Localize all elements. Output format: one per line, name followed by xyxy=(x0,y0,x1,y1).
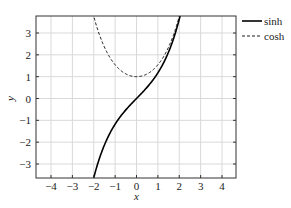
legend-sinh-label: sinh xyxy=(264,15,283,27)
y-axis-label: y xyxy=(4,96,16,102)
y-tick-label: −1 xyxy=(19,114,31,126)
y-tick-label: 1 xyxy=(26,71,32,83)
x-tick-label: 2 xyxy=(177,180,183,192)
x-axis-label: x xyxy=(133,190,139,202)
y-tick-label: −3 xyxy=(19,158,31,170)
x-tick-label: 3 xyxy=(198,180,204,192)
x-tick-label: −1 xyxy=(109,180,121,192)
x-tick-label: −2 xyxy=(88,180,100,192)
y-tick-label: 3 xyxy=(26,27,32,39)
y-tick-label: 0 xyxy=(26,93,32,105)
x-tick-label: −4 xyxy=(45,180,57,192)
y-tick-label: 2 xyxy=(26,49,32,61)
legend-cosh-label: cosh xyxy=(264,30,285,42)
x-tick-label: 4 xyxy=(219,180,225,192)
grid-lines xyxy=(36,16,236,178)
x-tick-label: −3 xyxy=(67,180,79,192)
chart: −4−3−2−101234−3−2−10123 x y sinh cosh xyxy=(0,0,291,208)
axis-ticks: −4−3−2−101234−3−2−10123 xyxy=(19,27,236,192)
x-tick-label: 1 xyxy=(155,180,161,192)
y-tick-label: −2 xyxy=(19,136,31,148)
legend: sinh cosh xyxy=(242,15,285,42)
